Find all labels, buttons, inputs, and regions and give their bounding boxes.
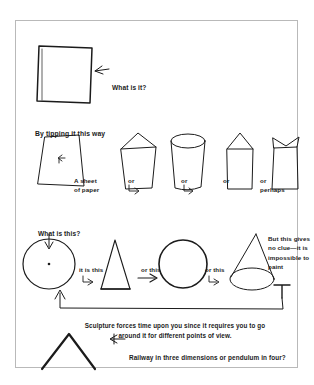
cylinder-shape xyxy=(171,134,205,190)
arrow-to-rectangle xyxy=(95,66,109,74)
arrow-it-is-this xyxy=(83,276,93,285)
annotation-or-1: or xyxy=(128,177,134,184)
annotation-but-this-gives-no-clue: But this gives no clue—it is impossible … xyxy=(268,234,312,271)
annotation-or-perhaps: or perhaps xyxy=(260,177,285,195)
feedback-loop-arrow xyxy=(55,290,283,309)
annotation-by-tipping: By tipping it this way xyxy=(35,130,105,138)
pointed-box-shape xyxy=(227,133,253,189)
note-pointer xyxy=(274,285,290,298)
caption-railway: Railway in three dimensions or pendulum … xyxy=(129,354,286,362)
caption-sculpture: Sculpture forces time upon you since it … xyxy=(80,321,270,341)
arrow-or-this-1 xyxy=(138,274,157,282)
figure-frame: What is it? By tipping it this way A she… xyxy=(15,20,298,368)
annotation-it-is-this: it is this xyxy=(79,266,103,273)
figure-drawing xyxy=(16,21,299,369)
disc-shape xyxy=(159,240,207,288)
arrow-sheet-label xyxy=(58,155,65,163)
rectangle-shape xyxy=(37,46,92,103)
annotation-or-this-2: or this xyxy=(205,266,225,273)
annotation-what-is-it: What is it? xyxy=(112,84,146,92)
annotation-or-this-1: or this xyxy=(141,266,161,273)
triangle-shape xyxy=(101,240,130,289)
annotation-or-3: or xyxy=(223,177,229,184)
arrow-or-this-2 xyxy=(209,276,219,285)
tapered-box-shape xyxy=(121,133,156,189)
arrow-or1 xyxy=(129,185,139,194)
annotation-what-is-this: What is this? xyxy=(38,230,80,238)
annotation-a-sheet-of-paper: A sheet of paper xyxy=(74,177,99,195)
annotation-or-2: or xyxy=(181,177,187,184)
